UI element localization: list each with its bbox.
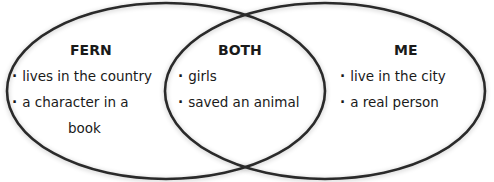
venn-diagram (0, 0, 494, 182)
fern-title: FERN (70, 42, 112, 58)
me-title: ME (394, 42, 418, 58)
both-title: BOTH (218, 42, 262, 58)
both-item: saved an animal (178, 94, 299, 110)
fern-item: a character in a (12, 94, 129, 110)
fern-item: lives in the country (12, 68, 152, 84)
fern-item-continuation: book (68, 120, 101, 136)
both-item: girls (178, 68, 217, 84)
me-item: a real person (340, 94, 439, 110)
me-item: live in the city (340, 68, 446, 84)
